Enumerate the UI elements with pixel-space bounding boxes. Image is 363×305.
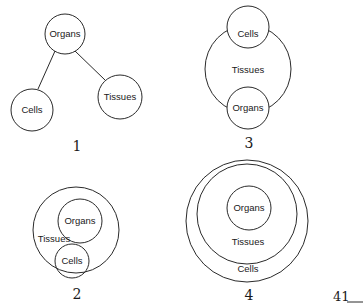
tissues-circle [197,164,297,264]
page-footer: 41 [333,289,363,304]
organs-label: Organs [232,102,263,113]
diagram-number-2: 2 [73,286,82,302]
diagram-number-1: 1 [73,138,82,154]
diagram-number-4: 4 [245,287,254,303]
tissues-label: Tissues [104,91,137,102]
organs-label: Organs [49,28,80,39]
diagram-3: Cells Tissues Organs 3 [205,6,291,151]
cells-circle [227,6,269,48]
edge-organs-tissues [75,51,105,80]
tissues-label: Tissues [38,233,71,244]
diagram-4: Organs Tissues Cells 4 [186,160,308,303]
cells-label: Cells [61,255,82,266]
diagram-2: Organs Tissues Cells 2 [33,187,119,302]
diagram-canvas: Organs Cells Tissues 1 Cells Tissues Org… [0,0,363,305]
diagram-1: Organs Cells Tissues 1 [11,14,142,154]
cells-label: Cells [237,28,258,39]
organs-label: Organs [233,202,264,213]
tissues-label: Tissues [232,64,265,75]
edge-organs-cells [38,51,55,89]
cells-label: Cells [21,104,42,115]
diagram-number-3: 3 [245,135,254,151]
tissues-label: Tissues [232,236,265,247]
cells-label: Cells [237,263,258,274]
organs-label: Organs [64,215,95,226]
